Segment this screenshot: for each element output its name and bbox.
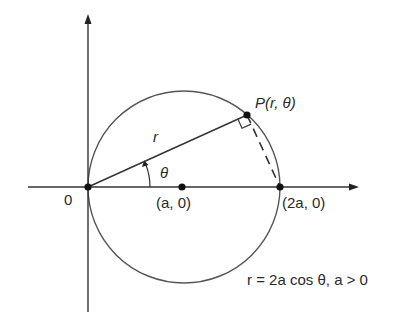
angle-label: θ — [160, 164, 168, 181]
angle-arc — [146, 164, 151, 187]
origin-label: 0 — [64, 191, 72, 208]
radius-label: r — [153, 128, 159, 145]
equation-label: r = 2a cos θ, a > 0 — [247, 271, 368, 288]
point-a — [178, 183, 185, 190]
point-p — [243, 111, 250, 118]
point-2a — [276, 183, 283, 190]
polar-circle-diagram: 0 (a, 0) (2a, 0) P(r, θ) r θ r = 2a cos … — [0, 0, 417, 328]
origin-point — [84, 183, 91, 190]
dashed-chord — [247, 115, 280, 187]
y-axis-arrow-icon — [85, 14, 92, 24]
point-p-label: P(r, θ) — [255, 94, 296, 111]
point-a-label: (a, 0) — [156, 194, 191, 211]
x-axis-arrow-icon — [349, 184, 359, 191]
point-2a-label: (2a, 0) — [282, 194, 325, 211]
